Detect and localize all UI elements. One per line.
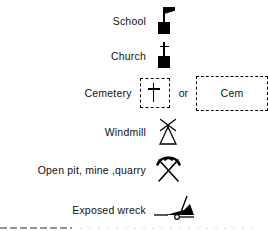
- legend-label-cemetery: Cemetery: [0, 87, 140, 99]
- legend-row-cemetery: Cemetery or Cem: [0, 72, 268, 114]
- legend-symbol-cell-church: [154, 41, 188, 71]
- legend-symbol-cell-windmill: [154, 117, 188, 147]
- cemetery-cross-icon: [140, 78, 170, 108]
- exposed-wreck-icon: [154, 195, 206, 225]
- legend-symbol-cell-cemetery: or Cem: [140, 76, 268, 111]
- legend-connector-or: or: [179, 87, 188, 99]
- flag-shape: [164, 7, 175, 14]
- legend-label-mine: Open pit, mine ,quarry: [0, 164, 154, 176]
- legend-row-school: School: [0, 4, 268, 38]
- legend-label-church: Church: [0, 50, 154, 62]
- windmill-svg: [154, 117, 188, 147]
- legend-label-windmill: Windmill: [0, 126, 154, 138]
- page-cut-artifact: [0, 227, 72, 229]
- legend-label-wreck: Exposed wreck: [0, 204, 154, 216]
- cem-abbreviation-text: Cem: [221, 87, 244, 99]
- cross-horizontal-shape: [160, 46, 169, 48]
- legend-row-church: Church: [0, 40, 268, 72]
- school-flag-icon: [154, 5, 188, 37]
- crossed-pickaxes-icon: [154, 154, 190, 186]
- legend-label-school: School: [0, 15, 154, 27]
- legend-symbol-cell-wreck: [154, 195, 206, 225]
- page-cut-artifact-secondary: [80, 228, 260, 229]
- pickaxes-svg: [154, 154, 190, 186]
- cross-horizontal-shape: [148, 88, 160, 90]
- legend-symbol-cell-mine: [154, 154, 190, 186]
- building-square-shape: [158, 56, 170, 68]
- legend-symbol-cell-school: [154, 5, 188, 37]
- church-cross-icon: [154, 41, 188, 71]
- map-legend: School Church Cemetery or: [0, 0, 268, 231]
- wreck-svg: [154, 195, 206, 225]
- building-square-shape: [158, 22, 170, 34]
- legend-row-mine: Open pit, mine ,quarry: [0, 152, 268, 188]
- windmill-icon: [154, 117, 188, 147]
- cemetery-cem-label-icon: Cem: [196, 76, 268, 111]
- cross-vertical-shape: [153, 83, 155, 102]
- legend-row-windmill: Windmill: [0, 116, 268, 148]
- legend-row-wreck: Exposed wreck: [0, 192, 268, 228]
